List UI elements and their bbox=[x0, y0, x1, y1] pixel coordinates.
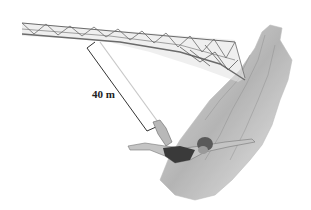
bungee-diagram bbox=[0, 0, 311, 210]
truss-bridge bbox=[22, 23, 245, 82]
dimension-line bbox=[87, 42, 156, 131]
bungee-cord bbox=[100, 42, 158, 122]
dimension-label: 40 m bbox=[92, 88, 115, 100]
